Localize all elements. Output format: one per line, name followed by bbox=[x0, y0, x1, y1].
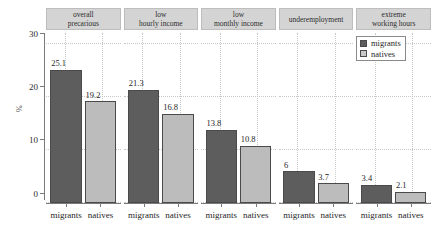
legend-swatch-icon-natives bbox=[360, 50, 367, 57]
panel-0: overallprecarious25.119.2migrantsnatives bbox=[46, 8, 121, 228]
legend-swatch-icon-migrants bbox=[360, 40, 367, 47]
bar-natives[interactable] bbox=[240, 146, 271, 203]
bar-value-label: 3.7 bbox=[318, 173, 329, 182]
panel-plot-area: 63.7 bbox=[279, 33, 354, 203]
bar-group: 25.119.2 bbox=[46, 33, 121, 203]
bar-value-label: 6 bbox=[284, 161, 288, 170]
y-tick-label-10: 10 bbox=[14, 136, 38, 145]
y-tick-label-30: 30 bbox=[14, 30, 38, 39]
x-tick-label-migrants: migrants bbox=[361, 210, 393, 220]
bar-group: 13.810.8 bbox=[201, 33, 276, 203]
x-tickmark bbox=[144, 203, 145, 207]
panel-plot-area: 21.316.8 bbox=[124, 33, 199, 203]
panel-2: lowmonthly income13.810.8migrantsnatives bbox=[201, 8, 276, 228]
panel-strip-label: overallprecarious bbox=[46, 8, 121, 30]
panel-plot-area: 25.119.2 bbox=[46, 33, 121, 203]
panel-strip-label: extremeworking hours bbox=[356, 8, 431, 30]
panel-strip-label: lowhourly income bbox=[124, 8, 199, 30]
x-tick-label-migrants: migrants bbox=[50, 210, 82, 220]
panel-strip-line2: monthly income bbox=[214, 19, 263, 28]
bar-value-label: 21.3 bbox=[129, 79, 144, 88]
x-axis-line bbox=[279, 203, 354, 204]
x-tickmark bbox=[66, 203, 67, 207]
x-axis-tick-labels: migrantsnatives bbox=[356, 210, 431, 226]
bar-migrants[interactable] bbox=[50, 70, 81, 203]
x-tick-label-migrants: migrants bbox=[128, 210, 160, 220]
bar-value-label: 19.2 bbox=[86, 91, 101, 100]
y-axis-tick-labels: 30 20 10 0 bbox=[12, 0, 38, 236]
x-tick-label-migrants: migrants bbox=[283, 210, 315, 220]
bar-natives[interactable] bbox=[395, 192, 426, 203]
bar-value-label: 10.8 bbox=[241, 135, 256, 144]
bar-migrants[interactable] bbox=[128, 90, 159, 203]
panel-3: underemployment63.7migrantsnatives bbox=[279, 8, 354, 228]
bar-value-label: 13.8 bbox=[206, 119, 221, 128]
x-axis-tick-labels: migrantsnatives bbox=[124, 210, 199, 226]
x-tick-label-natives: natives bbox=[243, 210, 269, 220]
bar-natives[interactable] bbox=[85, 101, 116, 203]
x-axis-line bbox=[124, 203, 199, 204]
panel-strip-line1: underemployment bbox=[289, 15, 344, 24]
x-tickmark bbox=[221, 203, 222, 207]
legend-label-migrants: migrants bbox=[371, 39, 401, 48]
bar-migrants[interactable] bbox=[283, 171, 314, 203]
bar-group: 21.316.8 bbox=[124, 33, 199, 203]
legend-label-natives: natives bbox=[371, 50, 395, 59]
panel-strip-line1: low bbox=[155, 10, 166, 19]
panel-strip-line2: hourly income bbox=[139, 19, 183, 28]
legend: migrants natives bbox=[356, 36, 406, 61]
x-tick-label-natives: natives bbox=[165, 210, 191, 220]
panel-1: lowhourly income21.316.8migrantsnatives bbox=[124, 8, 199, 228]
legend-item-migrants[interactable]: migrants bbox=[360, 39, 401, 48]
x-tick-label-migrants: migrants bbox=[206, 210, 238, 220]
x-axis-tick-labels: migrantsnatives bbox=[201, 210, 276, 226]
panel-strip-line1: low bbox=[233, 10, 244, 19]
panel-plot-area: 13.810.8 bbox=[201, 33, 276, 203]
x-tickmark bbox=[411, 203, 412, 207]
y-tick-label-20: 20 bbox=[14, 83, 38, 92]
x-tickmark bbox=[100, 203, 101, 207]
x-tick-label-natives: natives bbox=[398, 210, 424, 220]
x-tickmark bbox=[377, 203, 378, 207]
x-axis-tick-labels: migrantsnatives bbox=[46, 210, 121, 226]
panel-strip-line1: extreme bbox=[382, 10, 406, 19]
panel-strip-label: underemployment bbox=[279, 8, 354, 30]
bar-value-label: 3.4 bbox=[362, 174, 373, 183]
x-axis-line bbox=[201, 203, 276, 204]
panel-strip-label: lowmonthly income bbox=[201, 8, 276, 30]
x-axis-line bbox=[356, 203, 431, 204]
bar-group: 63.7 bbox=[279, 33, 354, 203]
x-axis-tick-labels: migrantsnatives bbox=[279, 210, 354, 226]
bar-natives[interactable] bbox=[318, 183, 349, 203]
x-tick-label-natives: natives bbox=[320, 210, 346, 220]
legend-item-natives[interactable]: natives bbox=[360, 50, 401, 59]
bar-migrants[interactable] bbox=[361, 185, 392, 203]
x-tickmark bbox=[256, 203, 257, 207]
x-axis-line bbox=[46, 203, 121, 204]
x-tickmark bbox=[299, 203, 300, 207]
grouped-bar-chart: % 30 20 10 0 overallprecarious25.119.2mi… bbox=[0, 0, 435, 236]
bar-natives[interactable] bbox=[162, 114, 193, 203]
y-axis-line bbox=[44, 33, 45, 200]
bar-value-label: 25.1 bbox=[51, 59, 66, 68]
y-tick-label-0: 0 bbox=[14, 190, 38, 199]
bar-value-label: 16.8 bbox=[163, 103, 178, 112]
x-tickmark bbox=[178, 203, 179, 207]
x-tick-label-natives: natives bbox=[88, 210, 114, 220]
bar-migrants[interactable] bbox=[206, 130, 237, 203]
bar-value-label: 2.1 bbox=[396, 181, 407, 190]
panel-strip-line1: overall bbox=[73, 10, 94, 19]
panel-strip-line2: precarious bbox=[68, 19, 99, 28]
x-tickmark bbox=[333, 203, 334, 207]
panel-strip-line2: working hours bbox=[372, 19, 416, 28]
